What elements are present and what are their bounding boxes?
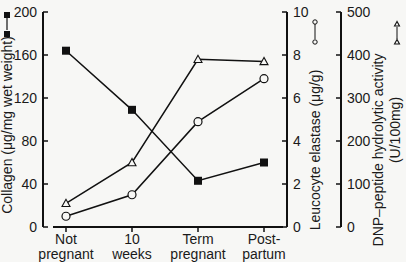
tick-label: 6 [293, 90, 301, 106]
circle-marker [128, 191, 136, 199]
square-marker [62, 47, 70, 55]
axis-labels: Collagen (μg/mg wet weight)Leucocyte ela… [0, 12, 403, 246]
tick-label: 160 [14, 47, 38, 63]
tick-label: 120 [14, 90, 38, 106]
tick-label: 300 [347, 90, 371, 106]
tick-label: 40 [21, 176, 37, 192]
tick-label: 2 [293, 176, 301, 192]
tick-label: 200 [14, 4, 38, 20]
chart-svg: 0408012016020002468100100200300400500Not… [0, 0, 406, 262]
series-line [66, 51, 264, 181]
x-tick-label: 10 [124, 231, 140, 247]
square-marker [260, 159, 268, 167]
tick-label: 100 [347, 176, 371, 192]
legend-square-icon [4, 31, 10, 37]
left-axis-label: Collagen (μg/mg wet weight) [0, 36, 15, 214]
circle-marker [260, 75, 268, 83]
x-tick-label: Not [55, 231, 77, 247]
x-tick-label: pregnant [170, 246, 225, 262]
right-axis-label: DNP–peptide hydrolytic activity [370, 54, 386, 247]
tick-label: 500 [347, 4, 371, 20]
series-line [66, 59, 264, 203]
tick-label: 80 [21, 133, 37, 149]
series-line [66, 79, 264, 217]
triangle-marker [128, 159, 136, 166]
x-tick-label: pregnant [38, 246, 93, 262]
series-group [62, 47, 268, 221]
triangle-marker [62, 199, 70, 206]
tick-label: 200 [347, 133, 371, 149]
tick-label: 400 [347, 47, 371, 63]
tick-label: 8 [293, 47, 301, 63]
square-marker [194, 177, 202, 185]
tick-label: 4 [293, 133, 301, 149]
x-tick-label: Term [182, 231, 213, 247]
series-right [62, 55, 268, 206]
series-left [62, 47, 268, 185]
chart: 0408012016020002468100100200300400500Not… [0, 0, 406, 262]
right-axis-unit-label: (U/100mg) [387, 97, 403, 163]
tick-label: 10 [293, 4, 309, 20]
legend-circle-icon [313, 20, 317, 24]
middle-axis-label: Leucocyte elastase (μg/g) [307, 70, 323, 231]
square-marker [128, 106, 136, 114]
tick-label: 0 [293, 219, 301, 235]
x-tick-label: Post- [248, 231, 281, 247]
legend-square-icon [4, 12, 10, 18]
triangle-marker [395, 40, 400, 45]
tick-label: 0 [29, 219, 37, 235]
triangle-marker [395, 22, 400, 27]
x-tick-label: partum [242, 246, 286, 262]
circle-marker [194, 118, 202, 126]
series-middle [62, 75, 268, 221]
circle-marker [62, 212, 70, 220]
legend-circle-icon [313, 40, 317, 44]
tick-label: 0 [347, 219, 355, 235]
x-tick-label: weeks [111, 246, 152, 262]
